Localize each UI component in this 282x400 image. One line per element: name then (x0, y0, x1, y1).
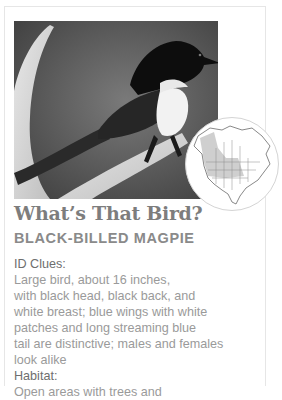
description-line: patches and long streaming blue (30, 320, 264, 336)
description-line: look alike (30, 352, 264, 368)
description-line: white breast; blue wings with white (30, 304, 264, 320)
habitat-label: Habitat: (14, 369, 57, 383)
range-map (185, 117, 279, 211)
description-line: Open areas with trees and (30, 384, 264, 400)
north-america-map-icon (186, 118, 279, 211)
species-description: ID Clues: Large bird, about 16 inches, w… (14, 256, 264, 400)
description-line: Large bird, about 16 inches, (30, 272, 264, 288)
id-clues-entry: ID Clues: Large bird, about 16 inches, w… (14, 256, 264, 368)
page-title: What’s That Bird? (14, 202, 202, 224)
description-line: with black head, black back, and (30, 288, 264, 304)
id-clues-label: ID Clues: (14, 257, 66, 271)
habitat-entry: Habitat: Open areas with trees and (14, 368, 264, 400)
description-line: tail are distinctive; males and females (30, 336, 264, 352)
species-name: BLACK-BILLED MAGPIE (14, 230, 195, 246)
